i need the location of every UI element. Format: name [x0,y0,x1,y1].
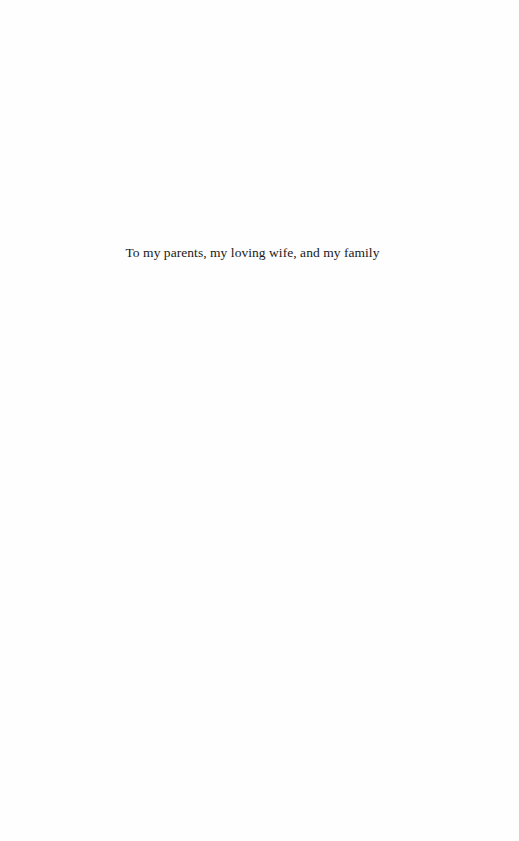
book-page: To my parents, my loving wife, and my fa… [0,0,519,841]
dedication-text: To my parents, my loving wife, and my fa… [0,245,519,261]
